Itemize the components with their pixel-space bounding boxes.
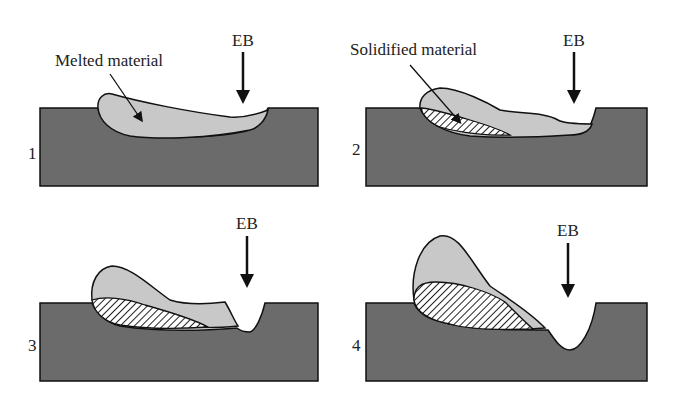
solidified-material-label: Solidified material — [350, 40, 477, 59]
panel-2: 2 Solidified material EB — [350, 31, 647, 186]
electron-beam-arrow-icon — [236, 52, 250, 104]
panel-number: 2 — [352, 140, 361, 159]
electron-beam-arrow-icon — [567, 52, 581, 104]
melted-material-label: Melted material — [55, 51, 163, 70]
panel-4: 4 EB — [352, 221, 647, 381]
eb-label: EB — [557, 221, 579, 240]
eb-label: EB — [563, 31, 585, 50]
eb-label: EB — [232, 31, 254, 50]
panel-1: 1 Melted material EB — [28, 31, 318, 186]
panel-3: 3 EB — [28, 214, 318, 381]
eb-melting-sequence-diagram: 1 Melted material EB 2 Solidified materi… — [0, 0, 680, 393]
panel-number: 1 — [28, 144, 37, 163]
panel-number: 3 — [28, 336, 37, 355]
electron-beam-arrow-icon — [240, 236, 254, 288]
electron-beam-arrow-icon — [561, 243, 575, 298]
eb-label: EB — [236, 214, 258, 233]
panel-number: 4 — [352, 336, 361, 355]
